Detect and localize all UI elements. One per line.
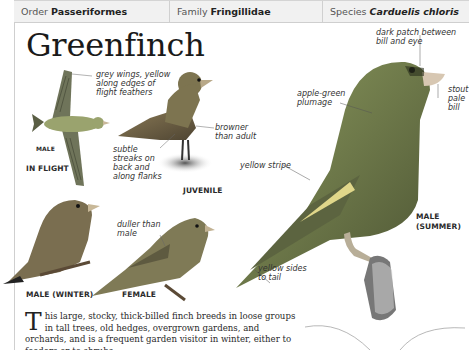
label-male-summer-1: MALE — [416, 212, 440, 221]
label-female: FEMALE — [122, 290, 156, 299]
label-male-summer-2: (SUMMER) — [416, 222, 461, 231]
body-paragraph: T his large, stocky, thick-billed finch … — [25, 311, 300, 350]
label-male-flight: MALE — [36, 144, 55, 153]
order-label: Order — [21, 6, 48, 17]
label-male-winter: MALE (WINTER) — [26, 290, 93, 299]
annotation-stout-bill: stout pale bill — [448, 85, 468, 112]
taxonomy-family: Family Fringillidae — [170, 1, 323, 22]
label-juvenile: JUVENILE — [183, 186, 223, 195]
annotation-juvenile-browner: browner than adult — [215, 123, 265, 141]
page-margin-rule — [14, 0, 15, 350]
taxonomy-bar: Order Passeriformes Family Fringillidae … — [14, 0, 469, 23]
annotation-yellow-sides: yellow sides to tail — [258, 264, 308, 282]
taxonomy-order: Order Passeriformes — [14, 1, 170, 22]
bird-male-winter — [3, 200, 100, 284]
annotation-apple-green: apple-green plumage — [297, 89, 347, 107]
species-value: Carduelis chloris — [370, 6, 459, 17]
label-in-flight: IN FLIGHT — [26, 164, 69, 173]
taxonomy-species: Species Carduelis chloris — [323, 1, 469, 22]
annotation-juvenile-streaks: subtle streaks on back and along flanks — [113, 145, 168, 181]
drop-cap: T — [25, 312, 42, 332]
decor-curve-right — [400, 328, 465, 350]
field-guide-page: Order Passeriformes Family Fringillidae … — [0, 0, 469, 350]
order-value: Passeriformes — [51, 6, 127, 17]
annotation-yellow-stripe: yellow stripe — [240, 161, 300, 170]
body-text: his large, stocky, thick-billed finch br… — [25, 311, 295, 350]
family-label: Family — [177, 6, 208, 17]
species-label: Species — [330, 6, 367, 17]
annotation-dark-patch: dark patch between bill and eye — [376, 28, 466, 46]
annotation-female-duller: duller than male — [117, 220, 161, 238]
decor-curve-left — [305, 326, 370, 350]
annotation-flight-wings: grey wings, yellow along edges of flight… — [96, 70, 174, 97]
family-value: Fringillidae — [211, 6, 271, 17]
page-title: Greenfinch — [26, 26, 205, 64]
